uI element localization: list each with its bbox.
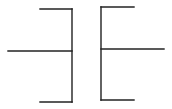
capacitor-diagram [0, 0, 172, 109]
right-plate [101, 7, 164, 100]
left-plate [8, 9, 72, 102]
